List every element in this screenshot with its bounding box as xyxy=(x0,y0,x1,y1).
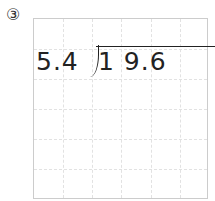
grid-line xyxy=(34,139,207,140)
grid-line xyxy=(34,79,207,80)
dividend: 1 9.6 xyxy=(98,47,167,77)
grid-line xyxy=(34,109,207,110)
problem-number: ③ xyxy=(6,6,20,24)
divisor: 5.4 xyxy=(36,47,79,77)
grid-line xyxy=(34,169,207,170)
